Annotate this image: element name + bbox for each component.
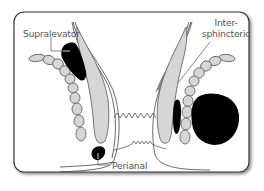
intersphincteric-label: Inter- sphincteric bbox=[198, 17, 254, 39]
intersphincteric-label-line2: sphincteric bbox=[198, 28, 254, 39]
intersphincteric-label-line1: Inter- bbox=[198, 17, 254, 28]
supralevator-label: Supralevator bbox=[23, 28, 80, 39]
perianal-label: Perianal bbox=[112, 160, 147, 171]
abscess-diagram: Supralevator Inter- sphincteric Perianal bbox=[0, 0, 264, 191]
